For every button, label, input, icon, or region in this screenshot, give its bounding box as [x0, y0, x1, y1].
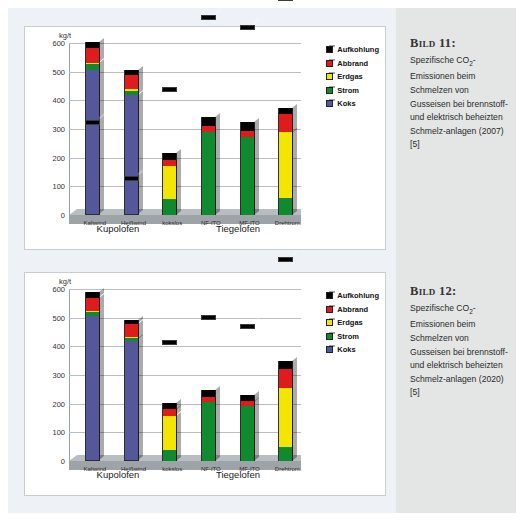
bar-kaltwind: Kaltwind — [85, 42, 100, 215]
bar-segment-abbrand — [201, 126, 216, 132]
bar-drehtrom: Drehtrom. — [278, 361, 293, 461]
y-axis-tick: 300 — [52, 125, 65, 134]
page-root: kg/t 0100200300400500600KaltwindHeißwind… — [0, 0, 524, 530]
bar-segment-strom — [278, 447, 293, 461]
bar-segment-abbrand — [162, 160, 177, 166]
legend-label: Koks — [337, 345, 355, 354]
legend-item-aufkohlung: Aufkohlung — [326, 45, 379, 54]
legend-label: Erdgas — [337, 318, 362, 327]
legend-item-erdgas: Erdgas — [326, 72, 379, 81]
bar-segment-aufkohlung — [162, 403, 177, 410]
bar-top-face — [278, 257, 293, 262]
bar-segment-koks — [124, 341, 139, 461]
legend-label: Abbrand — [337, 59, 368, 68]
bar-segment-koks — [124, 95, 139, 215]
y-axis-tick: 200 — [52, 399, 65, 408]
bar-segment-abbrand — [201, 397, 216, 402]
bar-segment-abbrand — [124, 75, 139, 89]
bar-top-face — [201, 315, 216, 320]
bar-drehtrom: Drehtrom. — [278, 108, 293, 215]
caption-bild-11: Bild 11: Spezifische CO2- Emissionen bei… — [410, 36, 510, 152]
bar-segment-abbrand — [240, 131, 255, 137]
bar-segment-aufkohlung — [278, 361, 293, 369]
bar-segment-strom — [278, 198, 293, 215]
legend-swatch-koks-icon — [326, 346, 333, 353]
bar-top-face — [162, 340, 177, 345]
bar-top-face — [85, 120, 100, 125]
caption-body-11: Spezifische CO2- Emissionen beim Schmelz… — [410, 54, 510, 152]
bar-top-face — [240, 25, 255, 30]
bar-top-face — [201, 15, 216, 20]
bar-nfito: NF-ITO — [201, 117, 216, 215]
y-axis-tick: 100 — [52, 182, 65, 191]
legend-swatch-abbrand-icon — [326, 60, 333, 67]
bar-segment-strom — [85, 64, 100, 70]
bar-segment-strom — [240, 137, 255, 215]
bar-segment-erdgas — [85, 311, 100, 312]
legend-label: Aufkohlung — [337, 291, 379, 300]
y-axis-tick: 400 — [52, 96, 65, 105]
bar-segment-abbrand — [85, 48, 100, 62]
group-label-kupolofen-1: Kupolofen — [73, 223, 163, 234]
legend-label: Strom — [337, 86, 359, 95]
legend-item-koks: Koks — [326, 345, 379, 354]
bar-segment-erdgas — [124, 89, 139, 91]
y-axis-tick: 500 — [52, 313, 65, 322]
y-axis-tick: 500 — [52, 67, 65, 76]
bar-segment-aufkohlung — [201, 117, 216, 126]
bar-segment-aufkohlung — [278, 108, 293, 114]
bar-segment-strom — [162, 199, 177, 215]
legend-label: Koks — [337, 99, 355, 108]
bar-segment-erdgas — [162, 166, 177, 199]
bar-segment-aufkohlung — [240, 395, 255, 402]
bar-segment-aufkohlung — [85, 292, 100, 297]
bar-segment-aufkohlung — [240, 122, 255, 131]
group-label-kupolofen-2: Kupolofen — [73, 469, 163, 480]
bar-mfito: MF-ITO — [240, 395, 255, 461]
legend-swatch-koks-icon — [326, 100, 333, 107]
bar-top-face — [240, 324, 255, 329]
bar-segment-koks — [85, 316, 100, 461]
caption-title-12: Bild 12: — [410, 284, 510, 299]
bar-segment-strom — [124, 338, 139, 341]
legend-label: Strom — [337, 332, 359, 341]
bar-segment-abbrand — [124, 324, 139, 337]
legend-swatch-strom-icon — [326, 333, 333, 340]
bar-segment-abbrand — [85, 298, 100, 311]
bar-segment-erdgas — [124, 337, 139, 339]
bar-mfito: MF-ITO — [240, 122, 255, 215]
bar-segment-strom — [240, 406, 255, 461]
bar-segment-aufkohlung — [85, 42, 100, 48]
group-label-tiegelofen-2: Tiegelofen — [193, 469, 283, 480]
legend-swatch-aufkohlung-icon — [326, 292, 333, 299]
y-axis-tick: 0 — [61, 211, 65, 220]
bar-top-face — [278, 0, 293, 1]
legend-swatch-abbrand-icon — [326, 306, 333, 313]
caption-title-11: Bild 11: — [410, 36, 510, 51]
plot-area-1: 0100200300400500600KaltwindHeißwindkoksl… — [69, 43, 301, 215]
legend-swatch-erdgas-icon — [326, 73, 333, 80]
bar-kaltwind: Kaltwind — [85, 292, 100, 461]
bar-nfito: NF-ITO — [201, 390, 216, 461]
legend-item-abbrand: Abbrand — [326, 59, 379, 68]
legend-label: Aufkohlung — [337, 45, 379, 54]
y-axis-tick: 300 — [52, 371, 65, 380]
bar-segment-erdgas — [85, 63, 100, 64]
bar-segment-erdgas — [278, 132, 293, 198]
legend-swatch-aufkohlung-icon — [326, 46, 333, 53]
legend-swatch-erdgas-icon — [326, 319, 333, 326]
legend-label: Erdgas — [337, 72, 362, 81]
bar-segment-abbrand — [278, 114, 293, 133]
legend-item-strom: Strom — [326, 332, 379, 341]
bar-top-face — [124, 176, 139, 181]
bar-segment-abbrand — [240, 401, 255, 406]
y-axis-tick: 0 — [61, 457, 65, 466]
bar-segment-aufkohlung — [201, 390, 216, 397]
bar-segment-strom — [85, 312, 100, 316]
y-axis-tick: 600 — [52, 39, 65, 48]
legend-1: AufkohlungAbbrandErdgasStromKoks — [326, 45, 379, 113]
plot-area-2: 0100200300400500600KaltwindHeißwindkoksl… — [69, 289, 301, 461]
bar-segment-strom — [124, 91, 139, 94]
y-axis-tick: 600 — [52, 285, 65, 294]
bar-segment-abbrand — [278, 369, 293, 388]
